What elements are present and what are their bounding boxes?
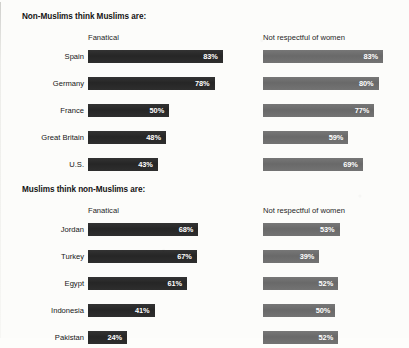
bar-track-fanatical: 68% bbox=[88, 223, 234, 236]
bar-fanatical: 68% bbox=[88, 223, 198, 236]
bar-not-respectful-of-women: 59% bbox=[263, 131, 348, 144]
row-label-turkey: Turkey bbox=[0, 252, 84, 261]
panel-rows: Spain83%83%Germany78%80%France50%77%Grea… bbox=[0, 48, 409, 183]
bar-value-label: 68% bbox=[179, 225, 199, 234]
bar-fanatical: 41% bbox=[88, 304, 155, 317]
bar-track-not-respectful-of-women: 50% bbox=[263, 304, 393, 317]
row-label-germany: Germany bbox=[0, 79, 84, 88]
bar-track-fanatical: 67% bbox=[88, 250, 234, 263]
bar-value-label: 52% bbox=[319, 333, 339, 342]
bar-fanatical: 83% bbox=[88, 50, 223, 63]
bar-not-respectful-of-women: 69% bbox=[263, 158, 363, 171]
panel-rows: Jordan68%53%Turkey67%39%Egypt61%52%Indon… bbox=[0, 221, 409, 348]
bar-value-label: 67% bbox=[177, 252, 197, 261]
row-label-spain: Spain bbox=[0, 52, 84, 61]
bar-value-label: 83% bbox=[203, 52, 223, 61]
bar-track-fanatical: 83% bbox=[88, 50, 234, 63]
bar-track-not-respectful-of-women: 52% bbox=[263, 277, 393, 290]
bar-track-not-respectful-of-women: 59% bbox=[263, 131, 393, 144]
row-label-indonesia: Indonesia bbox=[0, 306, 84, 315]
bar-value-label: 41% bbox=[135, 306, 155, 315]
bar-track-fanatical: 24% bbox=[88, 331, 234, 344]
bar-track-not-respectful-of-women: 80% bbox=[263, 77, 393, 90]
bar-value-label: 53% bbox=[320, 225, 340, 234]
table-row: Pakistan24%52% bbox=[0, 329, 409, 348]
bar-not-respectful-of-women: 53% bbox=[263, 223, 340, 236]
panel-heading: Non-Muslims think Muslims are: bbox=[22, 12, 146, 21]
table-row: Great Britain48%59% bbox=[0, 129, 409, 156]
bar-fanatical: 50% bbox=[88, 104, 169, 117]
bar-not-respectful-of-women: 50% bbox=[263, 304, 335, 317]
bar-value-label: 77% bbox=[355, 106, 375, 115]
bar-value-label: 61% bbox=[167, 279, 187, 288]
bar-value-label: 83% bbox=[363, 52, 383, 61]
bar-not-respectful-of-women: 52% bbox=[263, 277, 338, 290]
bar-value-label: 43% bbox=[138, 160, 158, 169]
table-row: Spain83%83% bbox=[0, 48, 409, 75]
bar-value-label: 59% bbox=[329, 133, 349, 142]
bar-fanatical: 61% bbox=[88, 277, 187, 290]
bar-fanatical: 67% bbox=[88, 250, 197, 263]
bar-value-label: 80% bbox=[359, 79, 379, 88]
bar-track-not-respectful-of-women: 53% bbox=[263, 223, 393, 236]
table-row: Indonesia41%50% bbox=[0, 302, 409, 329]
bar-value-label: 69% bbox=[343, 160, 363, 169]
table-row: Germany78%80% bbox=[0, 75, 409, 102]
bar-value-label: 48% bbox=[146, 133, 166, 142]
bar-track-not-respectful-of-women: 83% bbox=[263, 50, 393, 63]
table-row: U.S.43%69% bbox=[0, 156, 409, 183]
bar-not-respectful-of-women: 52% bbox=[263, 331, 338, 344]
bar-track-not-respectful-of-women: 69% bbox=[263, 158, 393, 171]
bar-fanatical: 43% bbox=[88, 158, 158, 171]
bar-value-label: 52% bbox=[319, 279, 339, 288]
bar-track-not-respectful-of-women: 39% bbox=[263, 250, 393, 263]
row-label-great-britain: Great Britain bbox=[0, 133, 84, 142]
column-header-not-respectful-of-women: Not respectful of women bbox=[263, 33, 345, 42]
bar-track-fanatical: 78% bbox=[88, 77, 234, 90]
row-label-u-s: U.S. bbox=[0, 160, 84, 169]
table-row: France50%77% bbox=[0, 102, 409, 129]
bar-track-fanatical: 41% bbox=[88, 304, 234, 317]
row-label-pakistan: Pakistan bbox=[0, 333, 84, 342]
bar-not-respectful-of-women: 77% bbox=[263, 104, 374, 117]
bar-value-label: 78% bbox=[195, 79, 215, 88]
bar-track-not-respectful-of-women: 52% bbox=[263, 331, 393, 344]
bar-not-respectful-of-women: 83% bbox=[263, 50, 383, 63]
row-label-jordan: Jordan bbox=[0, 225, 84, 234]
bar-fanatical: 24% bbox=[88, 331, 127, 344]
column-header-fanatical: Fanatical bbox=[88, 206, 119, 215]
bar-not-respectful-of-women: 80% bbox=[263, 77, 379, 90]
bar-fanatical: 48% bbox=[88, 131, 166, 144]
bar-track-fanatical: 50% bbox=[88, 104, 234, 117]
bar-not-respectful-of-women: 39% bbox=[263, 250, 319, 263]
bar-track-fanatical: 61% bbox=[88, 277, 234, 290]
column-header-not-respectful-of-women: Not respectful of women bbox=[263, 206, 345, 215]
row-label-france: France bbox=[0, 106, 84, 115]
bar-track-fanatical: 48% bbox=[88, 131, 234, 144]
bar-track-fanatical: 43% bbox=[88, 158, 234, 171]
panel-heading: Muslims think non-Muslims are: bbox=[22, 185, 145, 194]
bar-track-not-respectful-of-women: 77% bbox=[263, 104, 393, 117]
page-top-rule bbox=[0, 0, 409, 2]
bar-value-label: 50% bbox=[316, 306, 336, 315]
column-header-fanatical: Fanatical bbox=[88, 33, 119, 42]
table-row: Jordan68%53% bbox=[0, 221, 409, 248]
bar-value-label: 50% bbox=[150, 106, 170, 115]
bar-value-label: 24% bbox=[107, 333, 127, 342]
table-row: Turkey67%39% bbox=[0, 248, 409, 275]
row-label-egypt: Egypt bbox=[0, 279, 84, 288]
bar-value-label: 39% bbox=[300, 252, 320, 261]
bar-fanatical: 78% bbox=[88, 77, 215, 90]
table-row: Egypt61%52% bbox=[0, 275, 409, 302]
